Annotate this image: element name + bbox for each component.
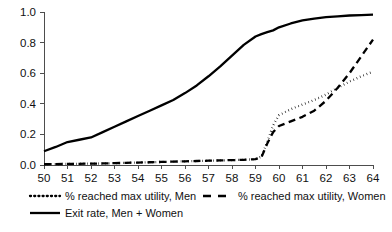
x-tick-label: 55 <box>155 172 168 184</box>
x-tick-label: 51 <box>61 172 74 184</box>
chart-figure: 0.00.20.40.60.81.0 505152535455565758596… <box>0 0 392 232</box>
y-tick-label: 0.4 <box>20 98 37 110</box>
x-axis: 505152535455565758596061626364 <box>38 165 380 184</box>
series-line-dashed <box>44 40 373 165</box>
x-tick-label: 61 <box>296 172 309 184</box>
x-tick-label: 57 <box>202 172 215 184</box>
x-tick-label: 53 <box>108 172 121 184</box>
x-tick-label: 54 <box>132 172 145 184</box>
y-tick-label: 0.2 <box>20 128 36 140</box>
y-tick-label: 0.6 <box>20 67 36 79</box>
x-tick-label: 60 <box>273 172 286 184</box>
y-tick-label: 1.0 <box>20 6 36 18</box>
y-tick-label: 0.0 <box>20 159 36 171</box>
x-tick-label: 62 <box>320 172 333 184</box>
series-lines <box>44 15 373 165</box>
x-tick-label: 56 <box>179 172 192 184</box>
plot-area: 0.00.20.40.60.81.0 505152535455565758596… <box>20 6 386 219</box>
x-tick-label: 58 <box>226 172 239 184</box>
x-tick-label: 64 <box>367 172 380 184</box>
legend-label: Exit rate, Men + Women <box>65 207 183 219</box>
y-tick-label: 0.8 <box>20 37 36 49</box>
x-tick-label: 63 <box>343 172 356 184</box>
legend-label: % reached max utility, Men <box>65 190 196 202</box>
x-tick-label: 52 <box>85 172 98 184</box>
chart-legend: % reached max utility, Men% reached max … <box>30 190 386 219</box>
x-tick-label: 59 <box>249 172 262 184</box>
series-line-solid <box>44 15 373 152</box>
series-line-dotted <box>44 72 373 165</box>
legend-label: % reached max utility, Women <box>238 190 386 202</box>
line-chart: 0.00.20.40.60.81.0 505152535455565758596… <box>0 0 392 232</box>
y-axis: 0.00.20.40.60.81.0 <box>20 6 44 171</box>
x-tick-label: 50 <box>38 172 51 184</box>
